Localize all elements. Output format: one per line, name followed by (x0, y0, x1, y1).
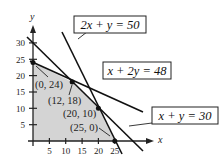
y-tick-label: 10 (16, 104, 26, 114)
vertex-label: (20, 10) (63, 108, 97, 120)
vertex-dot (96, 106, 101, 111)
x-tick-label: 5 (47, 146, 52, 156)
x-tick-label: 20 (94, 146, 104, 156)
vertex-label: (25, 0) (70, 122, 98, 134)
y-tick-label: 15 (16, 87, 26, 97)
equation-label-2x-plus-y: 2x + y = 50 (80, 18, 140, 32)
equation-label-x-plus-y: x + y = 30 (158, 109, 213, 123)
y-tick-label: 30 (16, 38, 26, 48)
x-tick-label: 15 (78, 146, 88, 156)
chart-canvas: 5 10 15 20 25 5 10 15 20 25 30 y x (0, 2… (0, 0, 222, 160)
vertex-dot (31, 60, 36, 65)
equation-label-x-plus-2y: x + 2y = 48 (106, 64, 167, 78)
y-tick-label: 20 (16, 71, 26, 81)
y-axis-arrow-icon (30, 25, 36, 33)
vertex-dot (112, 139, 117, 144)
leader-line (129, 123, 152, 126)
y-axis-label: y (29, 11, 35, 22)
x-axis-arrow-icon (146, 138, 154, 144)
vertex-label: (12, 18) (48, 95, 82, 107)
vertex-dot (70, 80, 75, 85)
x-axis-label: x (157, 134, 163, 145)
y-tick-label: 25 (16, 55, 26, 65)
x-tick-label: 10 (61, 146, 71, 156)
y-tick-label: 5 (21, 120, 26, 130)
vertex-label: (0, 24) (35, 79, 63, 91)
